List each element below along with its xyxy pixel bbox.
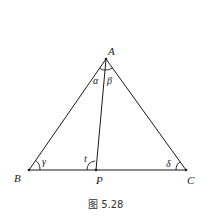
label-delta: δ (166, 158, 171, 169)
angle-arc-t (87, 161, 95, 170)
angle-arc-gamma (36, 161, 41, 170)
point-B-dot (28, 169, 31, 172)
figure-caption: 图 5.28 (88, 199, 123, 210)
point-P-dot (95, 169, 98, 172)
side-AC (106, 59, 186, 170)
label-C: C (187, 174, 195, 186)
label-alpha: α (93, 75, 99, 86)
angle-arc-delta (176, 162, 180, 170)
label-B: B (14, 172, 21, 184)
angle-arc-beta (105, 68, 113, 70)
label-A: A (107, 45, 115, 57)
point-A-dot (105, 58, 108, 61)
label-gamma: γ (42, 156, 47, 167)
label-P: P (95, 174, 103, 186)
label-beta: β (106, 75, 112, 86)
triangle-diagram: A B P C α β γ t δ 图 5.28 (0, 0, 210, 219)
point-C-dot (185, 169, 188, 172)
angle-arc-alpha (100, 68, 105, 70)
label-t: t (84, 153, 87, 164)
